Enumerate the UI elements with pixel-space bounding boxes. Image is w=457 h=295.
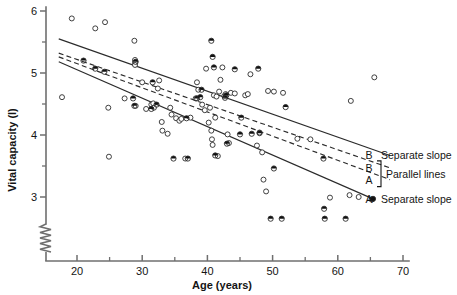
data-point-open-circle [260,150,265,155]
data-point-open-circle [159,119,164,124]
data-point-open-circle [327,195,332,200]
y-tick-label: 4 [31,129,37,141]
data-point-open-circle [140,80,145,85]
data-point-open-circle [348,98,353,103]
x-tick-label: 70 [397,265,409,277]
x-axis-title: Age (years) [192,279,252,291]
data-point-open-circle [160,128,165,133]
y-axis-title: Vital capacity (l) [6,108,18,192]
data-point-open-circle [261,177,266,182]
y-tick-label: 3 [31,191,37,203]
data-point-open-circle [200,102,205,107]
data-point-open-circle [194,80,199,85]
x-tick-label: 50 [266,265,278,277]
data-point-open-circle [60,95,65,100]
data-point-open-circle [106,105,111,110]
data-point-open-circle [214,94,219,99]
legend-key-b-1: B [365,162,372,174]
legend-label-3: Separate slope [381,193,452,205]
data-point-open-circle [209,137,214,142]
data-point-open-circle [248,72,253,77]
legend-key-b-0: B [365,149,372,161]
data-point-open-circle [165,131,170,136]
data-point-open-circle [179,116,184,121]
data-point-open-circle [103,20,108,25]
data-point-open-circle [372,75,377,80]
data-point-open-circle [106,154,111,159]
data-point-open-circle [295,136,300,141]
data-point-open-circle [220,65,225,70]
data-point-open-circle [122,96,127,101]
data-point-open-circle [69,16,74,21]
data-point-open-circle [169,112,174,117]
data-point-open-circle [213,115,218,120]
data-point-open-circle [264,189,269,194]
chart-background [0,0,457,295]
data-point-open-circle [204,66,209,71]
data-point-open-circle [266,88,271,93]
data-point-open-circle [202,108,207,113]
x-tick-label: 40 [201,265,213,277]
y-tick-label: 6 [31,5,37,17]
data-point-open-circle [347,193,352,198]
legend-label-0: Separate slope [381,149,452,161]
x-tick-label: 30 [136,265,148,277]
chart-canvas: 3456203040506070 Vital capacity (l) Age … [0,0,457,295]
legend-key-a-2: A [365,174,372,186]
data-point-open-circle [281,90,286,95]
data-point-open-circle [232,91,237,96]
data-point-open-circle [308,137,313,142]
vital-capacity-scatter-figure: 3456203040506070 Vital capacity (l) Age … [0,0,457,295]
data-point-open-circle [271,89,276,94]
data-point-open-circle [209,128,214,133]
x-tick-label: 60 [332,265,344,277]
data-point-open-circle [155,86,160,91]
data-point-open-circle [356,195,361,200]
data-point-open-circle [93,26,98,31]
data-point-open-circle [132,38,137,43]
data-point-open-circle [225,132,230,137]
data-point-open-circle [168,105,173,110]
legend-parallel-lines-label: Parallel lines [386,168,446,180]
data-point-open-circle [245,92,250,97]
data-point-open-circle [218,77,223,82]
data-point-open-circle [157,78,162,83]
y-tick-label: 5 [31,67,37,79]
data-point-open-circle [210,142,215,147]
data-point-open-circle [144,106,149,111]
data-point-open-circle [254,143,259,148]
data-point-open-circle [208,105,213,110]
data-point-open-circle [217,89,222,94]
x-tick-label: 20 [71,265,83,277]
legend-key-a-3: A [365,193,372,205]
data-point-open-circle [206,120,211,125]
